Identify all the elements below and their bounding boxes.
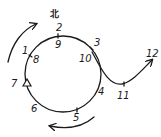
path-ticks <box>29 34 124 112</box>
point-label-1: 1 <box>22 45 28 56</box>
point-label-2: 2 <box>56 22 62 33</box>
point-label-6: 6 <box>31 103 37 114</box>
north-label: 北 <box>50 8 59 19</box>
point-label-12: 12 <box>146 48 159 59</box>
point-label-9: 9 <box>55 39 61 50</box>
point-label-8: 8 <box>33 54 39 65</box>
path-diagram: 北 1 2 3 4 5 6 7 8 9 10 11 12 <box>0 0 161 137</box>
rotation-arrow-bottom-icon <box>50 117 94 128</box>
point-label-5: 5 <box>73 112 79 123</box>
point-label-11: 11 <box>117 90 130 101</box>
start-triangle-icon <box>23 79 31 86</box>
point-label-4: 4 <box>98 86 104 97</box>
point-label-3: 3 <box>94 37 100 48</box>
point-label-7: 7 <box>11 78 18 89</box>
point-label-10: 10 <box>79 53 92 64</box>
